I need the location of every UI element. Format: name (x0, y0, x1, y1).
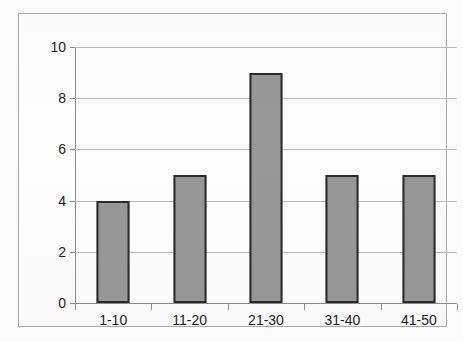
plot-area (75, 47, 457, 303)
y-axis-label: 10 (50, 40, 66, 54)
bar-21-30[interactable] (249, 73, 282, 303)
y-axis-label: 2 (58, 245, 66, 259)
y-axis-label: 8 (58, 91, 66, 105)
bar-slot (75, 47, 151, 303)
y-axis-label: 4 (58, 194, 66, 208)
x-axis-tick (304, 304, 305, 310)
bar-slot (304, 47, 380, 303)
bar-31-40[interactable] (326, 175, 359, 303)
y-axis-label: 6 (58, 142, 66, 156)
x-axis-label-21-30: 21-30 (248, 313, 284, 327)
x-axis-label-41-50: 41-50 (401, 313, 437, 327)
y-axis-tick-2 (70, 252, 75, 253)
bar-slot (228, 47, 304, 303)
y-axis-tick-8 (70, 98, 75, 99)
gridline-0 (75, 303, 457, 304)
x-axis-tick (457, 304, 458, 310)
x-axis-tick-origin (75, 304, 76, 310)
x-axis-tick (228, 304, 229, 310)
chart-frame: 02468101-1011-2021-3031-4041-50 (18, 13, 447, 327)
bar-slot (381, 47, 457, 303)
y-axis-label: 0 (58, 296, 66, 310)
bar-41-50[interactable] (402, 175, 435, 303)
y-axis-tick-4 (70, 201, 75, 202)
x-axis-tick (381, 304, 382, 310)
y-axis-tick-10 (70, 47, 75, 48)
bar-slot (151, 47, 227, 303)
x-axis-label-31-40: 31-40 (324, 313, 360, 327)
bar-11-20[interactable] (173, 175, 206, 303)
bar-1-10[interactable] (97, 201, 130, 303)
x-axis-label-11-20: 11-20 (172, 313, 207, 327)
x-axis-tick (151, 304, 152, 310)
x-axis-label-1-10: 1-10 (99, 313, 127, 327)
y-axis-tick-6 (70, 149, 75, 150)
